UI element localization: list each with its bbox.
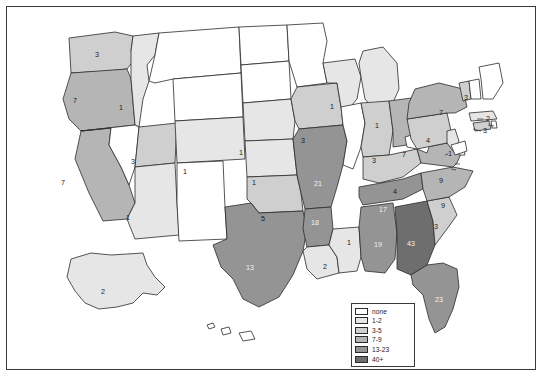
state-wy (173, 73, 243, 121)
legend-item: 40+ (355, 355, 411, 363)
state-nc (421, 167, 473, 201)
state-hi (207, 323, 255, 341)
state-value-label-ct: 3 (483, 126, 487, 135)
state-value-label-ny: 7 (439, 108, 443, 117)
state-value-label-nc: 9 (441, 201, 445, 210)
legend-item: 3-5 (355, 326, 411, 334)
state-value-label-ia: 3 (301, 136, 305, 145)
state-value-label-ak: 2 (101, 287, 105, 296)
state-value-label-ar: 18 (311, 218, 319, 227)
state-ks (245, 139, 297, 177)
legend-label: none (372, 308, 387, 315)
state-value-label-ne: 1 (239, 148, 243, 157)
state-value-label-ok: 5 (261, 214, 265, 223)
state-value-label-al: 19 (374, 240, 382, 249)
state-ny (407, 83, 467, 119)
state-value-label-co: 1 (183, 167, 187, 176)
state-nd (239, 25, 289, 65)
state-value-label-in: 3 (372, 156, 376, 165)
state-value-label-vt: 3 (464, 93, 468, 102)
legend-swatch (355, 317, 368, 324)
state-value-label-id: 1 (119, 103, 123, 112)
state-value-label-ky: 4 (393, 187, 397, 196)
map-legend: none1-23-57-913-2340+ (351, 303, 415, 367)
state-ar (303, 207, 333, 247)
map-border-frame: 3771311115133211821113741719432339947323… (6, 6, 536, 370)
state-al (359, 203, 397, 273)
state-mn (287, 23, 327, 87)
state-value-label-va: 9 (439, 176, 443, 185)
legend-item: 13-23 (355, 345, 411, 353)
legend-label: 40+ (372, 356, 384, 363)
state-value-label-mo: 21 (314, 179, 322, 188)
state-value-label-nj: 1 (448, 149, 452, 158)
legend-swatch (355, 356, 368, 363)
legend-label: 7-9 (372, 336, 382, 343)
map-canvas: 3771311115133211821113741719432339947323… (7, 7, 537, 371)
state-value-label-ga: 43 (407, 239, 415, 248)
state-ut (135, 123, 177, 167)
state-value-label-az: 1 (126, 213, 130, 222)
state-me (479, 63, 503, 99)
legend-label: 1-2 (372, 317, 382, 324)
state-value-label-sc: 3 (434, 222, 438, 231)
state-co (175, 117, 245, 163)
state-ma (469, 111, 497, 121)
state-ga (395, 201, 435, 275)
state-value-label-tn: 17 (379, 205, 387, 214)
legend-swatch (355, 336, 368, 343)
state-value-label-fl: 23 (435, 295, 443, 304)
state-wa (69, 32, 135, 73)
state-value-label-or: 7 (73, 96, 77, 105)
state-sd (241, 61, 291, 103)
legend-item: 1-2 (355, 317, 411, 325)
state-value-label-tx: 13 (246, 263, 254, 272)
state-value-label-mi: 1 (375, 121, 379, 130)
state-value-label-oh: 7 (402, 150, 406, 159)
us-choropleth-map-figure: 3771311115133211821113741719432339947323… (0, 0, 544, 378)
state-nh (469, 79, 481, 99)
legend-label: 3-5 (372, 327, 382, 334)
state-value-label-pa: 4 (426, 136, 430, 145)
state-ia (291, 83, 343, 129)
state-value-label-ms: 1 (347, 238, 351, 247)
state-value-label-wi: 1 (330, 102, 334, 111)
state-ak (67, 253, 165, 309)
state-ne (243, 99, 295, 141)
legend-item: none (355, 307, 411, 315)
state-ri (491, 121, 497, 128)
states-layer (63, 23, 503, 341)
legend-label: 13-23 (372, 346, 389, 353)
legend-swatch (355, 346, 368, 353)
state-tx (213, 203, 307, 307)
state-value-label-ks: 1 (252, 178, 256, 187)
legend-swatch (355, 308, 368, 315)
state-value-label-la: 2 (323, 262, 327, 271)
state-value-label-ca: 7 (61, 178, 65, 187)
state-value-label-wa: 3 (95, 50, 99, 59)
state-az (127, 163, 179, 239)
state-value-label-ma: 2 (486, 114, 490, 123)
legend-swatch (355, 327, 368, 334)
legend-item: 7-9 (355, 336, 411, 344)
state-value-label-ut: 3 (131, 157, 135, 166)
